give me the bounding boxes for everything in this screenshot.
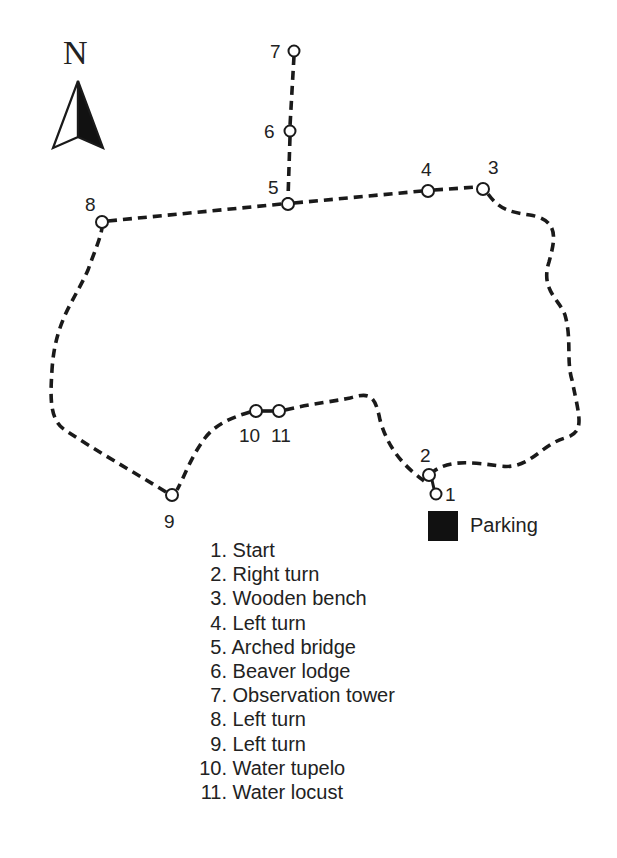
legend-item: 5. Arched bridge — [190, 635, 395, 659]
point-label-9: 9 — [164, 512, 175, 531]
point-label-7: 7 — [270, 42, 281, 61]
legend-item: 9. Left turn — [190, 732, 395, 756]
point-label-2: 2 — [420, 446, 431, 465]
legend-item: 11. Water locust — [190, 780, 395, 804]
trail-markers — [96, 46, 489, 502]
legend: 1. Start 2. Right turn 3. Wooden bench 4… — [190, 538, 395, 804]
legend-item: 4. Left turn — [190, 611, 395, 635]
legend-item: 1. Start — [190, 538, 395, 562]
point-label-1: 1 — [445, 485, 456, 504]
north-arrow-icon — [53, 81, 103, 148]
point-label-11: 11 — [271, 426, 291, 445]
point-label-10: 10 — [239, 426, 260, 445]
legend-item: 2. Right turn — [190, 562, 395, 586]
parking-label: Parking — [470, 515, 538, 535]
legend-item: 7. Observation tower — [190, 683, 395, 707]
point-label-6: 6 — [264, 122, 275, 141]
point-label-8: 8 — [85, 195, 96, 214]
point-label-4: 4 — [421, 160, 432, 179]
legend-item: 8. Left turn — [190, 707, 395, 731]
legend-item: 3. Wooden bench — [190, 586, 395, 610]
point-label-5: 5 — [268, 178, 279, 197]
legend-item: 6. Beaver lodge — [190, 659, 395, 683]
north-label: N — [63, 36, 88, 70]
point-label-3: 3 — [488, 158, 499, 177]
parking-icon — [428, 511, 458, 541]
trail-path — [51, 56, 579, 492]
legend-item: 10. Water tupelo — [190, 756, 395, 780]
